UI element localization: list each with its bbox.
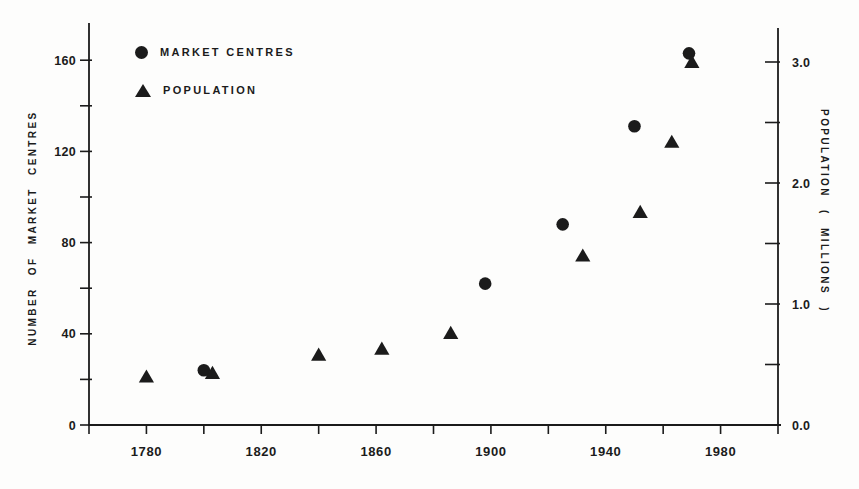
y-right-tick-label: 2.0 [792,177,810,191]
y-right-tick-label: 3.0 [792,56,810,70]
legend-item-market-centres: MARKET CENTRES [135,45,295,59]
y-left-tick-label: 120 [54,145,76,159]
x-tick-label: 1820 [246,444,277,459]
legend-label-population: POPULATION [163,84,257,96]
y-right-tick-label: 0.0 [792,419,810,433]
legend: MARKET CENTRES POPULATION [135,45,295,97]
population-point [664,135,679,148]
population-point [633,205,648,218]
population-point [374,342,389,355]
market-centres-point [479,277,492,290]
chart-canvas: 178018201860190019401980040801201600.01.… [0,0,859,489]
population-point [139,369,154,382]
market-centres-point [628,120,641,133]
population-point [443,326,458,339]
figure: 178018201860190019401980040801201600.01.… [0,0,859,489]
population-point [311,348,326,361]
y-axis-right-title: POPULATION ( MILLIONS ) [819,109,830,313]
y-left-tick-label: 160 [54,54,76,68]
x-tick-label: 1940 [590,444,621,459]
x-tick-label: 1860 [360,444,391,459]
population-point [575,248,590,261]
y-left-tick-label: 80 [61,236,76,250]
triangle-marker-icon [135,84,151,97]
x-tick-label: 1900 [475,444,506,459]
market-centres-point [556,218,569,231]
y-left-tick-label: 40 [61,327,76,341]
y-right-tick-label: 1.0 [792,298,810,312]
legend-item-population: POPULATION [135,83,295,97]
circle-marker-icon [135,46,148,59]
x-tick-label: 1980 [705,444,736,459]
y-axis-left-title: NUMBER OF MARKET CENTRES [27,110,38,345]
y-left-tick-label: 0 [69,419,76,433]
x-tick-label: 1780 [131,444,162,459]
legend-label-market-centres: MARKET CENTRES [160,46,295,58]
